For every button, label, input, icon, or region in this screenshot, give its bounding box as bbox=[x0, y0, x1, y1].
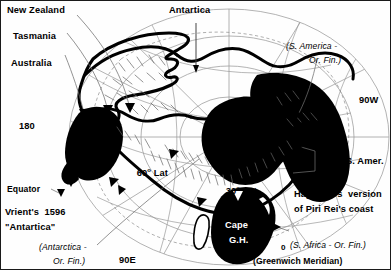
label-zero-meridian: 0 bbox=[281, 244, 286, 252]
arrowhead-s-africa-orfin bbox=[273, 223, 281, 231]
label-180: 180 bbox=[19, 122, 35, 132]
label-vrients-line1: Vrient's 1596 bbox=[5, 208, 65, 218]
label-s-africa-or-fin: (S. Africa - Or. Fin.) bbox=[290, 241, 366, 250]
label-30-lat-number: 30 bbox=[226, 186, 237, 196]
label-cape-line1: Cape bbox=[225, 221, 248, 231]
label-s-america-or-fin-line1: (S. America - bbox=[286, 42, 337, 51]
label-tasmania: Tasmania bbox=[13, 32, 56, 42]
label-hapgood-line2: of Piri Rei's coast bbox=[294, 205, 374, 215]
label-antartica: Antartica bbox=[169, 6, 210, 16]
island-outline bbox=[194, 215, 209, 249]
label-60-lat-word: Lat bbox=[151, 168, 168, 178]
label-greenwich-meridian: (Greenwich Meridian) bbox=[253, 257, 342, 266]
label-hapgood-line1: Hapgood's version bbox=[294, 190, 382, 200]
label-30-lat-word: Lat. bbox=[240, 186, 260, 196]
label-new-zealand: New Zealand bbox=[7, 6, 65, 16]
label-30-lat: 30o Lat. bbox=[215, 177, 260, 206]
label-cape-line2: G.H. bbox=[229, 236, 249, 246]
arrowhead-antarctica-orfin bbox=[118, 185, 126, 195]
label-90e: 90E bbox=[119, 256, 136, 266]
label-australia: Australia bbox=[11, 59, 52, 69]
label-antarctica-or-fin-line2: Or. Fin.) bbox=[53, 257, 85, 266]
label-antarctica-or-fin-line1: (Antarctica - bbox=[39, 243, 87, 252]
label-60-lat-number: 60 bbox=[137, 168, 148, 178]
arrowhead-new-zealand bbox=[125, 103, 135, 113]
label-s-america-or-fin-line2: Or. Fin.) bbox=[309, 56, 341, 65]
label-vrients-line2: "Antartica" bbox=[5, 223, 55, 233]
label-equator: Equator bbox=[7, 185, 40, 194]
label-90w: 90W bbox=[359, 96, 378, 106]
label-60-lat: 60o Lat bbox=[126, 159, 168, 188]
piri-reis-comparison-figure: New Zealand Tasmania Australia Antartica… bbox=[0, 0, 391, 270]
arrowhead-lat60 bbox=[169, 149, 179, 159]
label-s-amer: S. Amer. bbox=[346, 157, 384, 167]
